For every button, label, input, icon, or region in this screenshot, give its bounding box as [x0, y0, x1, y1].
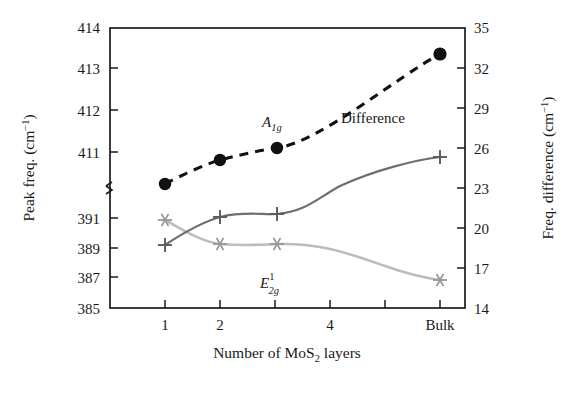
left-tick-414: 414 [78, 20, 101, 36]
a1g-marker-3 [271, 142, 283, 154]
x-axis-title: Number of MoS2 layers [213, 344, 361, 364]
figure-container: 414 413 412 411 391 389 387 385 35 32 29… [0, 0, 585, 402]
right-tick-17: 17 [474, 261, 490, 277]
left-axis-title-superscript: −1 [20, 120, 31, 131]
series-label-e12g: E12g [259, 271, 279, 296]
left-axis-tick-labels: 414 413 412 411 391 389 387 385 [78, 20, 101, 317]
right-axis-title-pre: Freq. difference (cm [539, 113, 557, 240]
e12g-marker-1 [158, 214, 172, 226]
left-tick-413: 413 [78, 61, 101, 77]
x-tick-bulk: Bulk [425, 317, 455, 333]
chart-plot: 414 413 412 411 391 389 387 385 35 32 29… [0, 0, 585, 402]
left-axis-title: Peak freq. (cm−1) [20, 114, 38, 221]
right-tick-35: 35 [474, 20, 489, 36]
difference-marker-bulk [433, 150, 447, 164]
x-axis-title-pre: Number of MoS [213, 344, 315, 361]
right-axis-ticks [457, 68, 465, 268]
series-label-difference: Difference [341, 110, 405, 126]
difference-marker-1 [158, 238, 172, 252]
left-axis-title-pre: Peak freq. (cm [20, 131, 38, 222]
x-axis-title-post: layers [320, 344, 361, 361]
right-tick-14: 14 [474, 301, 490, 317]
left-tick-391: 391 [78, 211, 101, 227]
x-axis-tick-labels: 1 2 4 Bulk [161, 317, 455, 333]
right-axis-title-superscript: −1 [539, 102, 550, 113]
right-tick-20: 20 [474, 221, 489, 237]
series-label-a1g: A1g [261, 114, 282, 133]
left-tick-385: 385 [78, 301, 101, 317]
right-tick-23: 23 [474, 181, 489, 197]
left-tick-389: 389 [78, 241, 101, 257]
e12g-label-subscript: 2g [268, 285, 279, 296]
x-tick-4: 4 [326, 317, 334, 333]
right-tick-29: 29 [474, 101, 489, 117]
difference-marker-2 [213, 210, 227, 224]
left-tick-412: 412 [78, 103, 101, 119]
right-tick-26: 26 [474, 141, 490, 157]
a1g-marker-bulk [433, 47, 446, 60]
a1g-label-subscript: 1g [271, 122, 282, 133]
left-tick-411: 411 [78, 145, 100, 161]
e12g-label-superscript: 1 [269, 271, 274, 282]
right-axis-title-post: ) [539, 96, 557, 101]
x-tick-1: 1 [161, 317, 169, 333]
e12g-marker-2 [213, 238, 227, 250]
axis-break-marker [106, 182, 112, 194]
e12g-marker-3 [270, 238, 284, 250]
x-axis-ticks [165, 300, 440, 308]
a1g-marker-2 [214, 154, 226, 166]
a1g-marker-1 [159, 178, 171, 190]
x-tick-2: 2 [216, 317, 224, 333]
difference-marker-3 [270, 207, 284, 221]
right-axis-tick-labels: 35 32 29 26 23 20 17 14 [474, 20, 490, 317]
left-tick-387: 387 [78, 270, 101, 286]
right-tick-32: 32 [474, 61, 489, 77]
left-axis-ticks [110, 68, 118, 277]
e12g-marker-bulk [433, 274, 447, 286]
right-axis-title: Freq. difference (cm−1) [539, 96, 557, 239]
left-axis-title-post: ) [20, 114, 38, 119]
